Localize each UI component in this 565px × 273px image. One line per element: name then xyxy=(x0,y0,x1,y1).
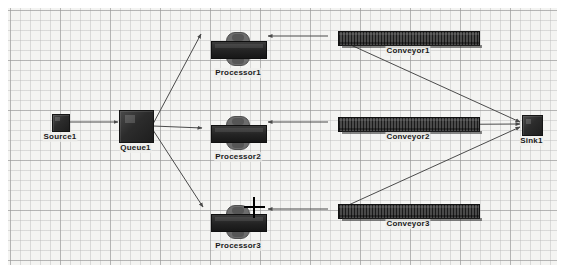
conveyor-top-rail xyxy=(339,206,479,208)
object-conveyor2[interactable]: Conveyor2 xyxy=(338,117,478,130)
conveyor-belt xyxy=(338,31,480,46)
object-label-processor2: Processor2 xyxy=(214,152,262,162)
object-sink1[interactable]: Sink1 xyxy=(522,115,541,134)
source-highlight xyxy=(55,117,60,121)
queue-body xyxy=(119,110,154,143)
object-source1[interactable]: Source1 xyxy=(52,114,68,130)
conveyor-bottom-rail xyxy=(339,42,479,44)
model-canvas[interactable]: Source1 Queue1 Processor1 Processor2 xyxy=(8,8,557,265)
object-queue1[interactable]: Queue1 xyxy=(119,110,152,141)
processor-body xyxy=(211,214,267,232)
connection-queue1-processor3[interactable] xyxy=(153,130,203,207)
object-processor3[interactable]: Processor3 xyxy=(211,205,265,239)
object-label-processor3: Processor3 xyxy=(214,241,262,251)
object-processor2[interactable]: Processor2 xyxy=(211,116,265,150)
source-body xyxy=(52,114,70,132)
connection-queue1-processor2[interactable] xyxy=(153,126,202,128)
processor-sheen xyxy=(215,128,263,132)
object-label-sink1: Sink1 xyxy=(519,136,543,146)
object-label-queue1: Queue1 xyxy=(119,143,152,153)
processor-sheen xyxy=(215,44,263,48)
object-label-conveyor2: Conveyor2 xyxy=(385,132,430,142)
processor-body xyxy=(211,41,267,59)
connection-conveyor1-sink1[interactable] xyxy=(342,41,520,122)
conveyor-bottom-rail xyxy=(339,128,479,130)
queue-highlight xyxy=(125,115,135,123)
sink-highlight xyxy=(526,119,532,124)
conveyor-belt xyxy=(338,204,480,219)
object-conveyor3[interactable]: Conveyor3 xyxy=(338,204,478,217)
connection-queue1-processor1[interactable] xyxy=(153,34,201,124)
conveyor-bottom-rail xyxy=(339,215,479,217)
conveyor-top-rail xyxy=(339,119,479,121)
object-label-conveyor3: Conveyor3 xyxy=(385,219,430,229)
connection-conveyor3-sink1[interactable] xyxy=(342,127,520,208)
object-label-conveyor1: Conveyor1 xyxy=(385,46,430,56)
object-conveyor1[interactable]: Conveyor1 xyxy=(338,31,478,44)
object-label-processor1: Processor1 xyxy=(214,68,262,78)
conveyor-belt xyxy=(338,117,480,132)
object-label-source1: Source1 xyxy=(43,132,78,142)
conveyor-top-rail xyxy=(339,33,479,35)
processor-body xyxy=(211,125,267,143)
simulation-model-window: Source1 Queue1 Processor1 Processor2 xyxy=(0,0,565,273)
processor-sheen xyxy=(215,217,263,221)
object-processor1[interactable]: Processor1 xyxy=(211,32,265,66)
sink-body xyxy=(522,115,543,136)
